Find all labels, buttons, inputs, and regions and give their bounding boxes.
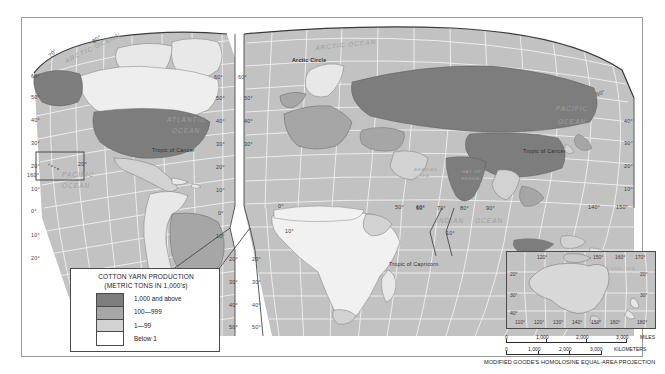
graticule-label-38: 70°	[437, 205, 446, 211]
miles-label-3: 3,000	[616, 334, 629, 340]
graticule-label-31: 40°	[252, 302, 261, 308]
line-label-2: Tropic of Cancer	[523, 148, 566, 154]
graticule-label-23: 40°	[229, 302, 238, 308]
graticule-label-33: 0°	[278, 203, 284, 209]
inset-bottom-label-5: 160°	[610, 319, 620, 325]
km-scale-line	[506, 354, 601, 355]
graticule-label-3: 50°	[31, 94, 40, 100]
graticule-label-48: 10°	[624, 186, 633, 192]
inset-right-label-1: 30°	[640, 292, 648, 298]
sea-label-1: SEA	[419, 173, 430, 178]
graticule-label-29: 20°	[252, 256, 261, 262]
map-legend: COTTON YARN PRODUCTION (METRIC TONS IN 1…	[70, 268, 220, 352]
graticule-label-39: 80°	[460, 205, 469, 211]
graticule-label-32: 50°	[252, 324, 261, 330]
ocean-label-2: ATLANTIC	[167, 116, 206, 123]
ocean-label-3: OCEAN	[172, 127, 200, 134]
legend-swatch-0	[97, 294, 123, 307]
graticule-label-11: 160°	[27, 172, 39, 178]
inset-bottom-label-3: 140°	[572, 319, 582, 325]
miles-scale-line	[506, 342, 626, 343]
inset-top-label-0: 120°	[537, 254, 547, 260]
miles-label-2: 2,000	[576, 334, 589, 340]
graticule-label-21: 20°	[229, 256, 238, 262]
miles-label-1: 1,000	[536, 334, 549, 340]
km-label-1: 1,000	[528, 346, 541, 352]
line-label-3: Tropic of Capricorn	[389, 261, 438, 267]
ocean-label-7: OCEAN	[62, 182, 90, 189]
sea-label-3: BENGAL	[461, 176, 482, 181]
graticule-label-10: 20°	[31, 255, 40, 261]
ocean-label-8: INDIAN	[436, 217, 464, 224]
legend-swatch-stack	[96, 293, 124, 346]
graticule-label-15: 40°	[216, 118, 225, 124]
graticule-label-45: 40°	[624, 118, 633, 124]
graticule-label-7: 10°	[31, 186, 40, 192]
ocean-label-4: PACIFIC	[556, 105, 588, 112]
miles-unit: MILES	[640, 334, 655, 340]
inset-bottom-label-4: 150°	[591, 319, 601, 325]
graticule-label-16: 30°	[216, 141, 225, 147]
graticule-label-18: 10°	[216, 187, 225, 193]
inset-right-label-0: 20°	[640, 271, 648, 277]
graticule-label-47: 20°	[624, 163, 633, 169]
legend-label-2: 1—99	[134, 322, 151, 329]
legend-label-0: 1,000 and above	[134, 295, 182, 302]
graticule-label-24: 50°	[229, 324, 238, 330]
graticule-label-46: 30°	[624, 140, 633, 146]
graticule-label-4: 40°	[31, 117, 40, 123]
legend-title-line1: COTTON YARN PRODUCTION	[71, 273, 221, 280]
legend-label-1: 100—999	[134, 308, 162, 315]
inset-top-label-1: 150°	[593, 254, 603, 260]
ocean-label-9: OCEAN	[475, 217, 503, 224]
inset-bottom-label-2: 130°	[553, 319, 563, 325]
map-frame: ARCTIC OCEANARCTIC OCEANATLANTICOCEANPAC…	[21, 17, 643, 357]
inset-left-label-1: 30°	[510, 292, 518, 298]
graticule-label-34: 10°	[285, 228, 294, 234]
ocean-label-5: OCEAN	[558, 118, 586, 125]
projection-note: MODIFIED GOODE'S HOMOLOSINE EQUAL-AREA P…	[484, 359, 664, 365]
inset-left-label-0: 20°	[510, 271, 518, 277]
inset-bottom-label-6: 180°	[637, 319, 647, 325]
inset-top-label-2: 160°	[615, 254, 625, 260]
ocean-label-6: PACIFIC	[62, 171, 94, 178]
legend-swatch-2	[97, 320, 123, 333]
graticule-label-27: 40°	[244, 118, 253, 124]
graticule-label-9: 10°	[31, 232, 40, 238]
graticule-label-22: 30°	[229, 279, 238, 285]
graticule-label-14: 50°	[216, 95, 225, 101]
inset-left-label-2: 40°	[510, 310, 518, 316]
graticule-label-40: 90°	[486, 205, 495, 211]
graticule-label-25: 60°	[238, 74, 247, 80]
sea-label-0: ARABIAN	[414, 167, 437, 172]
km-label-0: 0	[505, 346, 508, 352]
graticule-label-13: 60°	[214, 74, 223, 80]
land-north-africa	[274, 206, 364, 222]
graticule-label-17: 20°	[216, 164, 225, 170]
sea-label-2: BAY OF	[462, 169, 481, 174]
legend-label-3: Below 1	[134, 335, 157, 342]
graticule-label-8: 0°	[31, 208, 37, 214]
graticule-label-30: 30°	[252, 279, 261, 285]
inset-bottom-label-1: 120°	[534, 319, 544, 325]
legend-swatch-1	[97, 307, 123, 320]
graticule-label-6: 20°	[31, 163, 40, 169]
graticule-label-12: 20°	[78, 161, 87, 167]
graticule-label-26: 50°	[244, 95, 253, 101]
km-label-3: 3,000	[590, 346, 603, 352]
graticule-label-35: 50°	[395, 204, 404, 210]
australia-inset-map: 120°150°160°170°110°120°130°140°150°160°…	[506, 251, 656, 329]
graticule-label-41: 10°	[446, 230, 455, 236]
graticule-label-19: 0°	[218, 210, 224, 216]
world-map-figure: ARCTIC OCEANARCTIC OCEANATLANTICOCEANPAC…	[0, 0, 665, 374]
graticule-label-37: 60°	[416, 205, 425, 211]
graticule-label-2: 60°	[31, 73, 40, 79]
inset-bottom-label-0: 110°	[515, 319, 525, 325]
graticule-label-20: 10°	[216, 233, 225, 239]
graticule-label-42: 140°	[588, 204, 600, 210]
km-unit: KILOMETERS	[614, 346, 646, 352]
inset-coral-sea-label: CORAL SEA	[607, 266, 635, 271]
km-label-2: 2,000	[559, 346, 572, 352]
line-label-0: Arctic Circle	[292, 57, 326, 63]
legend-swatch-3	[97, 332, 123, 345]
